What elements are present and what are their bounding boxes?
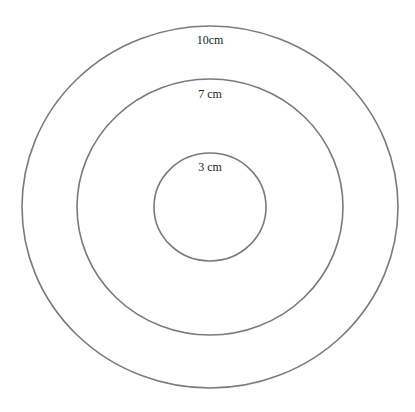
outer-circle-label: 10cm [197,34,224,46]
inner-circle-label: 3 cm [198,161,222,173]
concentric-circles-diagram: 10cm 7 cm 3 cm [0,0,415,412]
middle-circle [77,79,343,335]
outer-circle [22,26,398,388]
circles-svg [0,0,415,412]
middle-circle-label: 7 cm [198,88,222,100]
